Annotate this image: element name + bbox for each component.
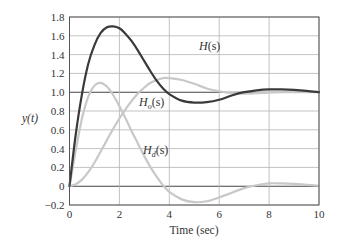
y-tick-label: 0.8 [51, 105, 65, 117]
x-tick-label: 10 [314, 208, 326, 220]
x-tick-label: 0 [67, 208, 73, 220]
curve-hds [70, 83, 320, 203]
tick-labels: −0.200.20.40.60.81.01.21.41.61.80246810 [45, 11, 325, 220]
y-tick-label: 1.8 [51, 11, 65, 23]
y-tick-label: 0.2 [51, 161, 65, 173]
curve-hs [70, 26, 320, 186]
x-tick-label: 4 [167, 208, 173, 220]
label-H-o: Ho(s) [138, 95, 164, 111]
y-tick-label: 0.4 [51, 143, 65, 155]
y-tick-label: 0.6 [51, 124, 65, 136]
y-tick-label: 1.4 [51, 49, 65, 61]
label-H: H(s) [198, 39, 220, 53]
y-tick-label: 1.6 [51, 30, 65, 42]
x-tick-label: 2 [117, 208, 123, 220]
curves [70, 26, 320, 202]
y-tick-label: −0.2 [45, 199, 65, 211]
y-tick-label: 1.0 [51, 86, 65, 98]
x-tick-label: 8 [266, 208, 272, 220]
grid-lines [70, 17, 320, 205]
step-response-chart: −0.200.20.40.60.81.01.21.41.61.80246810 … [0, 0, 340, 251]
curve-hos [70, 78, 320, 186]
y-tick-label: 0 [59, 180, 65, 192]
x-tick-label: 6 [216, 208, 222, 220]
y-axis-label: y(t) [21, 112, 38, 125]
label-H-d: Hd(s) [142, 143, 168, 159]
y-tick-label: 1.2 [51, 67, 65, 79]
x-axis-label: Time (sec) [169, 224, 218, 237]
chart-svg: −0.200.20.40.60.81.01.21.41.61.80246810 … [0, 0, 340, 251]
